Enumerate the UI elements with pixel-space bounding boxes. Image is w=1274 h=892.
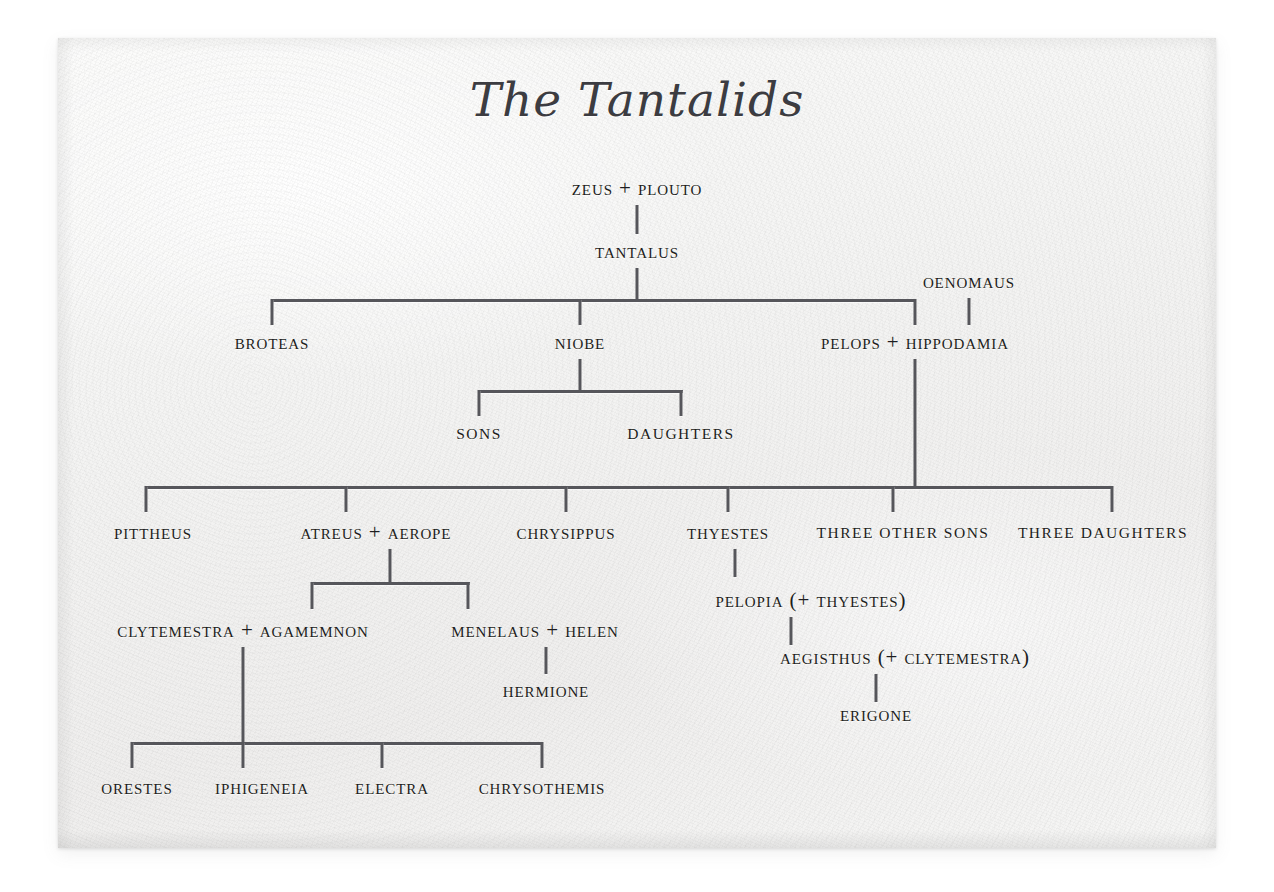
connector-stem-pelops xyxy=(914,299,917,325)
node-three-daughters: three daughters xyxy=(1018,524,1188,542)
node-tantalus: Tantalus xyxy=(595,239,679,264)
connector-clytemestra-children-bar xyxy=(131,742,543,745)
node-electra: Electra xyxy=(355,775,429,800)
paper-sheet xyxy=(58,38,1216,848)
node-hermione: Hermione xyxy=(503,678,589,703)
connector-clytemestra-stem xyxy=(242,647,245,743)
node-three-other-sons: three other sons xyxy=(817,524,990,542)
connector-stem-iphigeneia xyxy=(242,742,245,768)
connector-stem-sons xyxy=(478,390,481,416)
node-broteas: Broteas xyxy=(235,330,310,355)
connector-stem-chrysippus xyxy=(565,486,568,512)
connector-niobe-children-bar xyxy=(478,390,683,393)
node-iphigeneia: Iphigeneia xyxy=(215,775,309,800)
connector-stem-chrysothemis xyxy=(541,742,544,768)
connector-stem-thyestes xyxy=(727,486,730,512)
connector-atreus-children-bar xyxy=(311,582,470,585)
connector-niobe-stem xyxy=(579,359,582,391)
node-erigone: Erigone xyxy=(840,702,912,727)
connector-thyestes-to-pelopia xyxy=(734,549,737,577)
connector-atreus-stem xyxy=(389,549,392,583)
connector-stem-three-other-sons xyxy=(892,486,895,512)
node-menelaus-helen: Menelaus + Helen xyxy=(451,618,619,643)
connector-stem-orestes xyxy=(131,742,134,768)
connector-aegisthus-to-erigone xyxy=(875,674,878,702)
connector-stem-pittheus xyxy=(145,486,148,512)
connector-tantalus-children-bar xyxy=(271,299,916,302)
node-aegisthus-clytemestra: Aegisthus (+ Clytemestra) xyxy=(780,645,1030,670)
chart-title: The Tantalids xyxy=(0,72,1274,127)
node-thyestes: Thyestes xyxy=(687,520,769,545)
connector-pelopia-to-aegisthus xyxy=(790,617,793,645)
node-orestes: Orestes xyxy=(101,775,172,800)
node-oenomaus: Oenomaus xyxy=(923,269,1015,294)
connector-stem-atreus xyxy=(345,486,348,512)
connector-menelaus-to-hermione xyxy=(545,647,548,674)
connector-zeus-to-tantalus xyxy=(636,205,639,234)
node-daughters: daughters xyxy=(627,425,734,443)
connector-oenomaus-to-hippodamia xyxy=(968,298,971,325)
connector-pelops-children-bar xyxy=(145,486,1113,489)
node-chrysothemis: Chrysothemis xyxy=(479,775,606,800)
connector-stem-niobe xyxy=(579,299,582,325)
connector-tantalus-stem xyxy=(636,268,639,300)
node-niobe: Niobe xyxy=(555,330,605,355)
node-pelopia-thyestes: Pelopia (+ Thyestes) xyxy=(716,588,907,613)
node-clytemestra-agamemnon: Clytemestra + Agamemnon xyxy=(117,618,369,643)
node-sons: sons xyxy=(456,425,502,443)
connector-stem-electra xyxy=(381,742,384,768)
connector-pelops-stem xyxy=(914,359,917,487)
connector-stem-three-daughters xyxy=(1111,486,1114,512)
node-atreus-aerope: Atreus + Aerope xyxy=(301,520,452,545)
connector-stem-broteas xyxy=(271,299,274,325)
node-chrysippus: Chrysippus xyxy=(516,520,615,545)
connector-stem-clytemestra xyxy=(311,582,314,609)
connector-stem-menelaus xyxy=(467,582,470,609)
family-tree-chart: The Tantalids Zeus + Plouto Tantalus Bro… xyxy=(0,0,1274,892)
node-pittheus: Pittheus xyxy=(114,520,192,545)
connector-stem-daughters xyxy=(680,390,683,416)
node-zeus-plouto: Zeus + Plouto xyxy=(572,176,702,201)
node-pelops-hippodamia: Pelops + Hippodamia xyxy=(821,330,1009,355)
